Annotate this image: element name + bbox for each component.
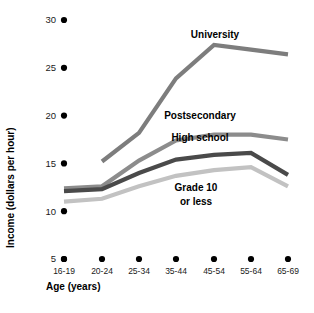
- svg-text:25-34: 25-34: [128, 266, 150, 276]
- svg-text:35-44: 35-44: [165, 266, 187, 276]
- svg-text:16-19: 16-19: [53, 266, 75, 276]
- svg-text:20-24: 20-24: [91, 266, 113, 276]
- svg-text:10: 10: [45, 206, 56, 217]
- svg-text:55-64: 55-64: [240, 266, 262, 276]
- y-axis-tick-labels: 51015202530: [45, 14, 56, 264]
- x-axis-title: Age (years): [46, 281, 100, 292]
- y-axis-tick-dots: [61, 17, 67, 262]
- svg-text:High school: High school: [171, 132, 228, 143]
- svg-text:5: 5: [51, 253, 56, 264]
- svg-text:45-54: 45-54: [203, 266, 225, 276]
- series-lines: [64, 45, 288, 202]
- svg-text:Postsecondary: Postsecondary: [164, 110, 236, 121]
- chart-page: 51015202530 16-1920-2425-3435-4445-5455-…: [0, 0, 314, 313]
- x-axis-tick-dots: [61, 256, 291, 262]
- svg-text:University: University: [191, 29, 240, 40]
- svg-text:or less: or less: [180, 196, 213, 207]
- y-axis-title: Income (dollars per hour): [5, 127, 16, 248]
- x-axis-tick-labels: 16-1920-2425-3435-4445-5455-6465-69: [53, 266, 299, 276]
- svg-text:65-69: 65-69: [277, 266, 299, 276]
- svg-text:Grade 10: Grade 10: [175, 182, 218, 193]
- svg-text:30: 30: [45, 14, 56, 25]
- line-chart: 51015202530 16-1920-2425-3435-4445-5455-…: [0, 0, 314, 313]
- svg-text:20: 20: [45, 110, 56, 121]
- svg-text:25: 25: [45, 62, 56, 73]
- svg-text:15: 15: [45, 158, 56, 169]
